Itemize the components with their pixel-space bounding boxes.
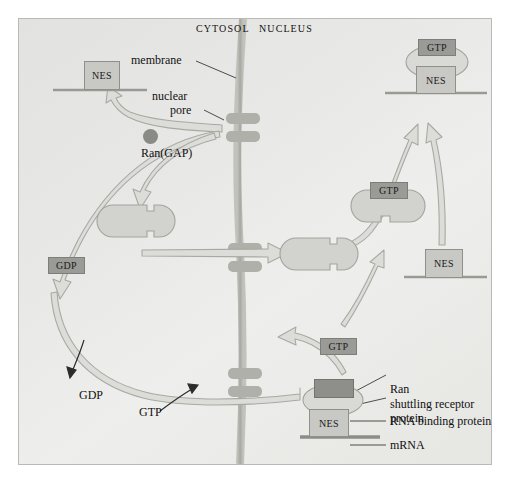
- gtp-box-cytosol: GTP: [320, 338, 357, 355]
- label-nucleus: NUCLEUS: [259, 24, 313, 35]
- nes-box-export-complex: NES: [416, 66, 456, 94]
- label-cytosol: CYTOSOL: [196, 24, 250, 35]
- nuclear-membrane: [237, 19, 243, 464]
- gtp-box-export-complex: GTP: [418, 39, 456, 56]
- nuclear-pore-top: [226, 113, 260, 142]
- label-nuclear-pore-line2: pore: [170, 104, 191, 117]
- label-nuclear-pore-line1: nuclear: [152, 90, 187, 103]
- receptor-nucleus-empty: [280, 238, 358, 270]
- gdp-box-cytosol: GDP: [48, 257, 85, 274]
- legend-nes-box: NES: [309, 409, 349, 437]
- legend-ran-box: [314, 379, 354, 398]
- leader-legend-receptor: [360, 398, 386, 404]
- legend-label-rnabp: RNA binding protein: [390, 415, 491, 428]
- nuclear-pore-middle: [228, 243, 262, 272]
- nes-box-cytosol: NES: [84, 61, 120, 90]
- label-gdp-release: GDP: [79, 389, 103, 402]
- leader-membrane: [196, 61, 236, 78]
- gtp-box-nuclear-receptor: GTP: [370, 182, 408, 199]
- legend-label-mrna: mRNA: [390, 439, 425, 452]
- legend-label-ran: Ran: [390, 383, 409, 396]
- label-gtp-load: GTP: [139, 406, 162, 419]
- receptor-cytosol: [97, 205, 175, 237]
- arrow-receptor-into-nucleus: [142, 243, 288, 263]
- legend-label-receptor-line1: shuttling receptor: [390, 398, 474, 411]
- nes-box-nucleus: NES: [425, 249, 463, 278]
- leader-pore: [204, 110, 224, 120]
- label-membrane: membrane: [131, 54, 182, 67]
- figure-canvas: CYTOSOL NUCLEUS membrane nuclear pore Ra…: [0, 0, 512, 485]
- ran-gap-dot: [143, 129, 158, 144]
- label-ran-gap: Ran(GAP): [141, 147, 192, 160]
- arrow-mrna-to-export-complex: [426, 123, 445, 245]
